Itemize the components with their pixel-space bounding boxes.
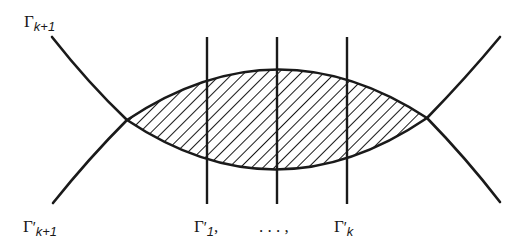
label-base: Γ (334, 217, 344, 236)
label-subscript: 1 (207, 224, 214, 239)
label-gamma-k-plus-1: Γk+1 (24, 13, 55, 30)
label-ellipsis: . . . , (259, 218, 289, 235)
label-base: Γ (194, 217, 204, 236)
label-subscript: k (347, 224, 354, 239)
lens-diagram (0, 0, 531, 248)
label-base: Γ (24, 12, 34, 31)
label-base: Γ (23, 217, 33, 236)
label-subscript: k+1 (36, 224, 57, 239)
label-subscript: k+1 (34, 19, 55, 34)
label-gamma-prime-k-plus-1: Γ′k+1 (23, 218, 57, 235)
label-gamma-prime-1: Γ′1, (194, 218, 218, 235)
ellipsis-text: . . . , (259, 217, 289, 236)
label-gamma-prime-k: Γ′k (334, 218, 353, 235)
label-comma: , (214, 217, 218, 236)
